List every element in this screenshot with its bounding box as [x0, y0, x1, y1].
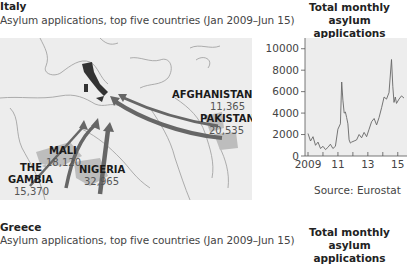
- chart-title-line2: asylum applications: [292, 14, 407, 40]
- greece-chart-title: Total monthly asylum applications: [292, 226, 407, 265]
- svg-text:8000: 8000: [272, 64, 299, 76]
- origin-value-mali: 18,120: [46, 157, 81, 169]
- svg-text:2000: 2000: [272, 128, 299, 140]
- y-axis-ticks: 0200040006000800010000: [266, 42, 305, 161]
- plot-area: [305, 38, 407, 156]
- origin-label-gambia: GAMBIA: [8, 174, 53, 186]
- chart-title-line1: Total monthly: [292, 226, 407, 239]
- chart-title-line1: Total monthly: [292, 1, 407, 14]
- origin-label-the: THE: [20, 162, 42, 174]
- svg-text:6000: 6000: [272, 85, 299, 97]
- origin-label-pakistan: PAKISTAN: [200, 113, 252, 125]
- italy-subtitle: Asylum applications, top five countries …: [0, 14, 294, 26]
- italy-chart-title: Total monthly asylum applications: [292, 1, 407, 40]
- chart-svg: 0200040006000800010000 2009111315: [255, 38, 407, 183]
- origin-value-gambia: 15,370: [14, 186, 49, 198]
- origin-label-afghanistan: AFGHANISTAN: [172, 89, 252, 101]
- greece-subtitle: Asylum applications, top five countries …: [0, 234, 294, 246]
- italy-title: Italy: [0, 0, 26, 12]
- italy-source: Source: Eurostat: [314, 184, 401, 196]
- svg-text:4000: 4000: [272, 107, 299, 119]
- origin-label-nigeria: NIGERIA: [79, 164, 125, 176]
- svg-text:2009: 2009: [295, 158, 322, 170]
- origin-value-nigeria: 32,965: [84, 176, 119, 188]
- chart-title-line2: asylum applications: [292, 239, 407, 265]
- origin-label-mali: MALI: [49, 145, 77, 157]
- origin-value-pakistan: 20,535: [209, 125, 244, 137]
- origin-value-afghanistan: 11,365: [210, 101, 245, 113]
- italy-map: AFGHANISTAN 11,365 PAKISTAN 20,535 MALI …: [0, 38, 252, 200]
- greece-title: Greece: [0, 221, 41, 233]
- svg-text:11: 11: [331, 158, 344, 170]
- svg-text:15: 15: [391, 158, 404, 170]
- italy-line-chart: 0200040006000800010000 2009111315: [255, 38, 407, 183]
- svg-text:10000: 10000: [266, 42, 299, 54]
- svg-text:13: 13: [361, 158, 374, 170]
